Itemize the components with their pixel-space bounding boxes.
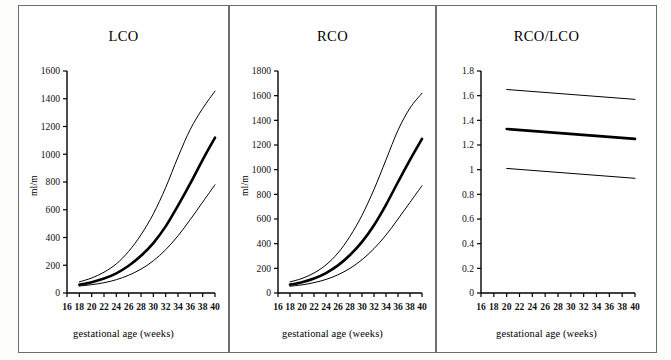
svg-text:1200: 1200 <box>252 139 271 150</box>
svg-text:38: 38 <box>405 301 415 312</box>
svg-text:1.2: 1.2 <box>462 139 474 150</box>
svg-text:24: 24 <box>321 301 331 312</box>
svg-text:30: 30 <box>149 301 159 312</box>
svg-text:18: 18 <box>285 301 295 312</box>
svg-text:18: 18 <box>75 301 85 312</box>
svg-text:1800: 1800 <box>252 65 271 76</box>
panel-lco-plot: 0200400600800100012001400160016182022242… <box>19 6 230 326</box>
svg-text:22: 22 <box>99 301 109 312</box>
svg-text:34: 34 <box>592 301 602 312</box>
svg-text:200: 200 <box>257 263 272 274</box>
svg-text:0: 0 <box>55 287 60 298</box>
svg-text:1.4: 1.4 <box>462 115 474 126</box>
svg-text:22: 22 <box>309 301 319 312</box>
panel-rco-lco-inner: RCO/LCO 00.20.40.60.811.21.41.61.8161820… <box>437 6 656 352</box>
svg-text:30: 30 <box>566 301 576 312</box>
panel-rco-lco-plot: 00.20.40.60.811.21.41.61.816182022242628… <box>437 6 658 326</box>
svg-text:32: 32 <box>369 301 379 312</box>
svg-text:38: 38 <box>198 301 208 312</box>
svg-text:30: 30 <box>357 301 367 312</box>
svg-text:1: 1 <box>469 164 474 175</box>
svg-text:600: 600 <box>46 204 61 215</box>
panel-rco-plot: 0200400600800100012001400160018001618202… <box>230 6 437 326</box>
svg-text:1200: 1200 <box>41 121 60 132</box>
svg-text:22: 22 <box>515 301 525 312</box>
svg-text:40: 40 <box>210 301 220 312</box>
svg-text:26: 26 <box>540 301 550 312</box>
svg-text:0.8: 0.8 <box>462 189 474 200</box>
svg-text:16: 16 <box>476 301 486 312</box>
svg-text:600: 600 <box>257 213 272 224</box>
svg-text:0: 0 <box>469 287 474 298</box>
svg-text:34: 34 <box>381 301 391 312</box>
svg-text:1400: 1400 <box>41 93 60 104</box>
svg-text:20: 20 <box>87 301 97 312</box>
svg-text:1600: 1600 <box>252 90 271 101</box>
panel-lco-inner: LCO ml/m 0200400600800100012001400160016… <box>19 6 228 352</box>
svg-text:24: 24 <box>112 301 122 312</box>
svg-text:1.8: 1.8 <box>462 65 474 76</box>
svg-text:24: 24 <box>528 301 538 312</box>
svg-text:36: 36 <box>605 301 615 312</box>
svg-text:28: 28 <box>345 301 355 312</box>
svg-text:28: 28 <box>136 301 146 312</box>
svg-text:20: 20 <box>502 301 512 312</box>
svg-text:28: 28 <box>553 301 563 312</box>
svg-text:40: 40 <box>417 301 427 312</box>
panel-rco: RCO ml/m 0200400600800100012001400160018… <box>229 5 436 353</box>
svg-text:20: 20 <box>297 301 307 312</box>
svg-text:800: 800 <box>257 189 272 200</box>
panel-rco-xlabel: gestational age (weeks) <box>230 328 435 339</box>
svg-text:36: 36 <box>393 301 403 312</box>
svg-text:400: 400 <box>46 232 61 243</box>
svg-text:800: 800 <box>46 176 61 187</box>
panel-rco-lco: RCO/LCO 00.20.40.60.811.21.41.61.8161820… <box>436 5 657 353</box>
svg-text:400: 400 <box>257 238 272 249</box>
svg-text:40: 40 <box>630 301 640 312</box>
svg-text:26: 26 <box>124 301 134 312</box>
svg-text:200: 200 <box>46 260 61 271</box>
svg-text:1.6: 1.6 <box>462 90 474 101</box>
svg-text:26: 26 <box>333 301 343 312</box>
svg-text:38: 38 <box>617 301 627 312</box>
svg-text:0.2: 0.2 <box>462 263 474 274</box>
svg-text:1400: 1400 <box>252 115 271 126</box>
svg-text:36: 36 <box>186 301 196 312</box>
panel-lco-xlabel: gestational age (weeks) <box>19 328 228 339</box>
panel-rco-inner: RCO ml/m 0200400600800100012001400160018… <box>230 6 435 352</box>
figure-container: LCO ml/m 0200400600800100012001400160016… <box>0 0 671 360</box>
svg-text:32: 32 <box>161 301 171 312</box>
svg-text:16: 16 <box>62 301 72 312</box>
svg-text:1000: 1000 <box>41 149 60 160</box>
panel-lco: LCO ml/m 0200400600800100012001400160016… <box>18 5 229 353</box>
svg-text:34: 34 <box>173 301 183 312</box>
svg-text:32: 32 <box>579 301 589 312</box>
svg-text:0.6: 0.6 <box>462 213 474 224</box>
svg-text:0.4: 0.4 <box>462 238 474 249</box>
svg-text:0: 0 <box>266 287 271 298</box>
svg-text:1000: 1000 <box>252 164 271 175</box>
svg-text:18: 18 <box>489 301 499 312</box>
svg-text:16: 16 <box>273 301 283 312</box>
panel-rco-lco-xlabel: gestational age (weeks) <box>437 328 656 339</box>
svg-text:1600: 1600 <box>41 65 60 76</box>
